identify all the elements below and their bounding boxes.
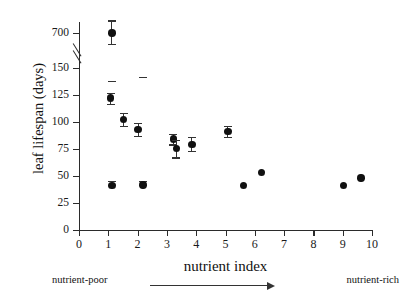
x-tick-4 (196, 230, 197, 236)
y-tick-label-700: 700 (35, 27, 79, 39)
y-tick-label-125: 125 (35, 89, 79, 101)
x-tick-3 (167, 230, 168, 236)
x-tick-7 (284, 230, 285, 236)
error-bar-cap (134, 136, 142, 137)
error-bar-cap (120, 113, 128, 114)
x-tick-5 (226, 230, 227, 236)
error-bar-cap (188, 151, 196, 152)
data-point (134, 126, 141, 133)
error-bar-cap (108, 44, 116, 45)
data-point (107, 94, 114, 101)
error-bar-cap (120, 126, 128, 127)
x-tick-0 (79, 230, 80, 236)
data-point (139, 181, 146, 188)
x-tick-9 (343, 230, 344, 236)
y-tick-label-50: 50 (35, 170, 79, 182)
x-tick-label-4: 4 (184, 238, 208, 251)
data-point (120, 116, 127, 123)
annotation-nutrient-poor: nutrient-poor (52, 274, 107, 285)
error-bar-cap (172, 157, 180, 158)
annotation-nutrient-rich: nutrient-rich (347, 274, 399, 285)
error-bar-cap (107, 104, 115, 105)
data-point (258, 169, 265, 176)
data-point (240, 182, 247, 189)
x-tick-2 (138, 230, 139, 236)
x-tick-label-7: 7 (272, 238, 296, 251)
data-point (357, 174, 364, 181)
x-tick-label-10: 10 (360, 238, 384, 251)
x-tick-label-2: 2 (126, 238, 150, 251)
data-point (224, 128, 231, 135)
x-tick-label-0: 0 (67, 238, 91, 251)
error-bar-cap (224, 137, 232, 138)
x-tick-label-1: 1 (96, 238, 120, 251)
x-axis-title: nutrient index (79, 258, 372, 275)
x-tick-8 (313, 230, 314, 236)
arrow-right-icon (150, 281, 275, 290)
data-point (108, 29, 115, 36)
error-bar-cap (172, 140, 180, 141)
x-tick-1 (108, 230, 109, 236)
error-bar-cap (108, 81, 116, 82)
data-point (340, 182, 347, 189)
y-tick-label-75: 75 (35, 143, 79, 155)
x-tick-label-9: 9 (331, 238, 355, 251)
x-tick-label-5: 5 (214, 238, 238, 251)
data-point (173, 145, 180, 152)
scatter-chart: leaf lifespan (days) 0255075100125150700… (0, 0, 405, 306)
error-bar-cap (139, 77, 147, 78)
x-tick-label-6: 6 (243, 238, 267, 251)
y-tick-label-0: 0 (35, 224, 79, 236)
error-bar-cap (134, 123, 142, 124)
x-tick-label-8: 8 (301, 238, 325, 251)
x-tick-10 (372, 230, 373, 236)
data-point (188, 141, 195, 148)
y-axis-break-icon (72, 40, 88, 60)
y-tick-label-100: 100 (35, 116, 79, 128)
x-tick-6 (255, 230, 256, 236)
y-tick-label-150: 150 (35, 62, 79, 74)
data-point (108, 182, 115, 189)
error-bar-cap (108, 20, 116, 21)
x-tick-label-3: 3 (155, 238, 179, 251)
error-bar-cap (188, 137, 196, 138)
y-tick-label-25: 25 (35, 197, 79, 209)
